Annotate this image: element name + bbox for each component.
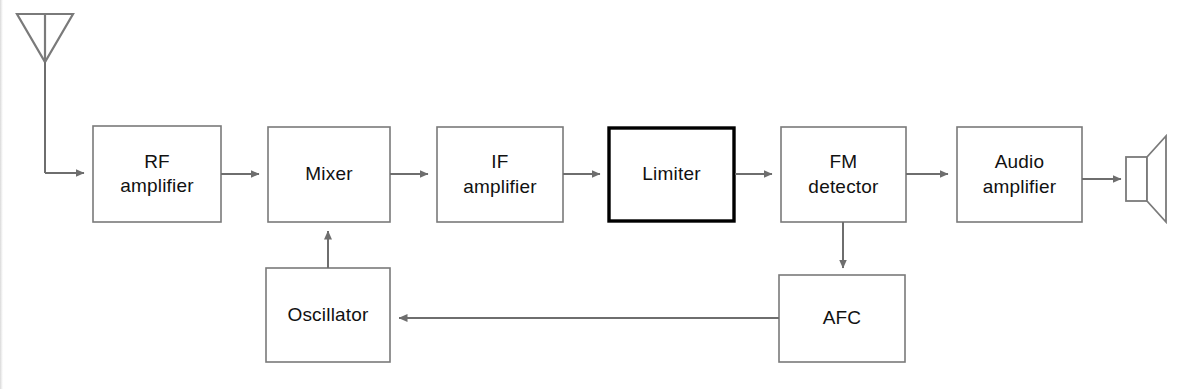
block-audio-amplifier [957,127,1082,222]
block-if-amplifier [437,127,563,222]
block-oscillator [266,268,390,362]
fm-receiver-block-diagram: RF amplifier Mixer IF amplifier Limiter … [0,0,1185,389]
block-afc [779,275,905,362]
block-fm-detector [781,127,906,222]
block-rf-amplifier [93,126,221,222]
block-mixer [268,127,390,222]
antenna-icon [17,14,73,173]
diagram-canvas [0,0,1185,389]
block-limiter [609,128,734,221]
loudspeaker-icon [1126,136,1166,222]
